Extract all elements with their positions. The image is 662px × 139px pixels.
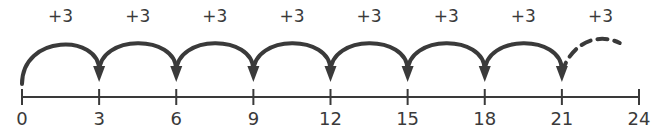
tick-label: 15 — [396, 108, 419, 129]
tick-label: 6 — [171, 108, 182, 129]
jump-arc — [331, 43, 414, 82]
jump-arc — [99, 43, 182, 82]
tick-label: 21 — [550, 108, 573, 129]
jump-arc — [253, 43, 336, 82]
jump-arc — [408, 43, 491, 82]
jump-label: +3 — [588, 6, 613, 26]
jump-label: +3 — [434, 6, 459, 26]
jump-arc — [562, 39, 620, 72]
jump-label: +3 — [202, 6, 227, 26]
tick-label: 24 — [628, 108, 651, 129]
jump-label: +3 — [357, 6, 382, 26]
tick-label: 0 — [16, 108, 27, 129]
tick-label: 12 — [319, 108, 342, 129]
jump-arc — [176, 43, 259, 82]
jump-label: +3 — [48, 6, 73, 26]
jump-label: +3 — [279, 6, 304, 26]
number-line-diagram: 03691215182124+3+3+3+3+3+3+3+3 — [0, 0, 662, 139]
jump-arc — [485, 43, 568, 82]
number-line — [22, 89, 639, 105]
jump-label: +3 — [511, 6, 536, 26]
tick-label: 18 — [473, 108, 496, 129]
jump-arcs — [22, 39, 620, 84]
tick-label: 3 — [93, 108, 104, 129]
jump-arc — [22, 45, 105, 84]
jump-label: +3 — [125, 6, 150, 26]
tick-label: 9 — [248, 108, 259, 129]
